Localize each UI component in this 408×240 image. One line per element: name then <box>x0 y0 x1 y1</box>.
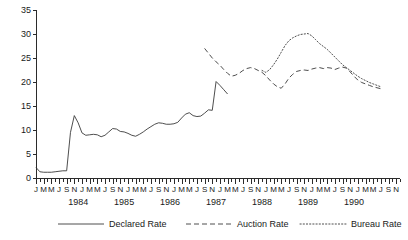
legend-item-auction-rate[interactable]: Auction Rate <box>186 216 289 232</box>
series-line-declared-rate <box>36 82 228 173</box>
chart-figure: Inflation-adjusted value of the cedi 051… <box>0 0 408 240</box>
chart-legend: Declared RateAuction RateBureau Rate <box>0 216 408 236</box>
plot-area <box>0 0 408 240</box>
legend-label: Auction Rate <box>237 219 289 229</box>
legend-label: Bureau Rate <box>351 219 402 229</box>
series-line-auction-rate <box>205 48 381 88</box>
legend-label: Declared Rate <box>109 219 167 229</box>
legend-swatch-solid <box>58 220 104 228</box>
legend-swatch-dotted <box>300 220 346 228</box>
legend-item-declared-rate[interactable]: Declared Rate <box>58 216 167 232</box>
series-line-bureau-rate <box>262 34 381 87</box>
legend-item-bureau-rate[interactable]: Bureau Rate <box>300 216 402 232</box>
legend-swatch-dashed <box>186 220 232 228</box>
